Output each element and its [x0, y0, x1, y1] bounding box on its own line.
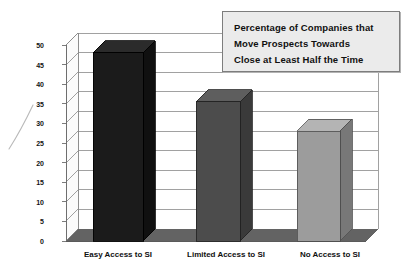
x-label-limited-access: Limited Access to SI	[163, 250, 289, 260]
chart-title-line-2: Move Prospects Towards	[234, 38, 350, 49]
bar-limited-access	[196, 90, 252, 241]
y-tick-5: 5	[22, 218, 44, 225]
y-tick-0: 0	[22, 238, 44, 245]
y-tick-25: 25	[22, 140, 44, 147]
chart-title-line-1: Percentage of Companies that	[234, 22, 374, 33]
y-tick-35: 35	[22, 100, 44, 107]
chart-container: 0 5 10 15 20 25 30 35 40 45 50 Easy Acce…	[0, 0, 418, 275]
y-tick-30: 30	[22, 120, 44, 127]
y-tick-50: 50	[22, 42, 44, 49]
bar-easy-access	[93, 41, 155, 241]
chart-title-line-3: Close at Least Half the Time	[234, 54, 363, 65]
y-tick-20: 20	[22, 159, 44, 166]
y-tick-15: 15	[22, 179, 44, 186]
x-label-easy-access: Easy Access to SI	[62, 250, 174, 260]
y-axis-ticks: 0 5 10 15 20 25 30 35 40 45 50	[20, 0, 44, 275]
x-label-no-access: No Access to SI	[272, 250, 388, 260]
y-tick-40: 40	[22, 81, 44, 88]
chart-title-box: Percentage of Companies that Move Prospe…	[222, 11, 400, 72]
y-tick-10: 10	[22, 198, 44, 205]
bar-no-access	[297, 119, 352, 241]
y-tick-45: 45	[22, 61, 44, 68]
